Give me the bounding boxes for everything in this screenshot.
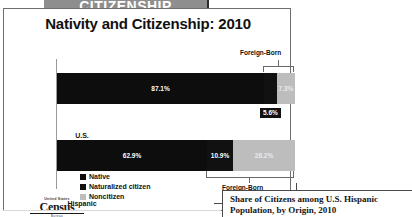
square-swatch-icon bbox=[80, 174, 86, 180]
legend-item-native: Native bbox=[80, 173, 150, 180]
scan-artifact-line bbox=[3, 210, 221, 211]
legend-label: Noncitizen bbox=[89, 193, 124, 200]
caption-text: Share of Citizens among U.S. Hispanic Po… bbox=[230, 194, 408, 216]
annotation-foreign-born-top: Foreign-Born bbox=[240, 49, 281, 56]
legend-label: Native bbox=[89, 173, 110, 180]
chart-plot-area: U.S. population Hispanic 87.1% 7.3% 5.6%… bbox=[56, 59, 294, 189]
square-swatch-icon bbox=[80, 184, 86, 190]
bar-segment-noncitizen: 26.2% bbox=[233, 140, 295, 171]
bar-segment-naturalized bbox=[264, 73, 277, 104]
caption-panel: Share of Citizens among U.S. Hispanic Po… bbox=[222, 190, 412, 217]
logo-main-text: Census bbox=[28, 201, 86, 213]
bar-segment-noncitizen: 7.3% bbox=[277, 73, 295, 104]
legend-item-noncitizen: Noncitizen bbox=[80, 193, 150, 200]
census-bureau-logo: United States Census Bureau bbox=[28, 197, 86, 217]
bar-segment-native: 87.1% bbox=[57, 73, 264, 104]
legend-item-naturalized-citizen: Naturalized citizen bbox=[80, 183, 150, 190]
bar-segment-native: 62.9% bbox=[57, 140, 207, 171]
bar-segment-naturalized: 10.9% bbox=[207, 140, 233, 171]
chart-slide: Nativity and Citizenship: 2010 U.S. popu… bbox=[3, 8, 291, 211]
logo-sub-text: Bureau bbox=[28, 214, 86, 217]
chart-legend: Native Naturalized citizen Noncitizen bbox=[80, 173, 150, 203]
value-callout-naturalized-us: 5.6% bbox=[259, 107, 282, 119]
page-title: Nativity and Citizenship: 2010 bbox=[4, 15, 292, 32]
legend-label: Naturalized citizen bbox=[89, 183, 150, 190]
